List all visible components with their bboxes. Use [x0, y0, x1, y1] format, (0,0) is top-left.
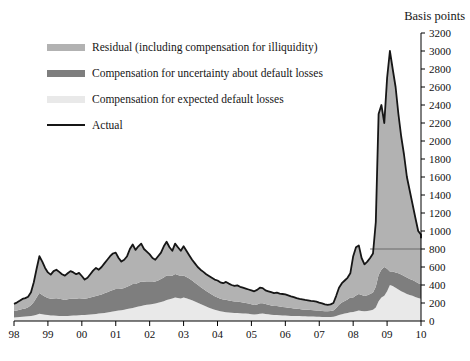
chart-legend: Residual (including compensation for ill… [47, 34, 323, 138]
legend-swatch-expected-icon [47, 96, 85, 103]
legend-item-expected: Compensation for expected default losses [47, 86, 323, 112]
legend-item-residual: Residual (including compensation for ill… [47, 34, 323, 60]
x-tick-label: 98 [9, 328, 21, 340]
y-tick-label: 600 [429, 261, 446, 273]
y-axis-title: Basis points [393, 9, 465, 24]
x-tick-label: 08 [348, 328, 360, 340]
legend-swatch-uncertainty-icon [47, 70, 85, 77]
legend-item-uncertainty: Compensation for uncertainty about defau… [47, 60, 323, 86]
x-tick-label: 00 [76, 328, 88, 340]
y-tick-label: 3200 [429, 27, 452, 39]
y-tick-label: 0 [429, 315, 435, 327]
y-tick-label: 2600 [429, 81, 452, 93]
x-tick-label: 05 [246, 328, 258, 340]
x-tick-label: 99 [42, 328, 54, 340]
y-tick-label: 1000 [429, 225, 452, 237]
y-tick-label: 1800 [429, 153, 452, 165]
x-tick-label: 04 [212, 328, 224, 340]
legend-item-actual: Actual [47, 112, 323, 138]
y-tick-label: 400 [429, 279, 446, 291]
x-tick-label: 03 [178, 328, 190, 340]
y-tick-label: 2800 [429, 63, 452, 75]
legend-label-expected: Compensation for expected default losses [92, 93, 284, 105]
x-tick-label: 02 [144, 328, 155, 340]
legend-label-actual: Actual [92, 119, 123, 131]
y-tick-label: 800 [429, 243, 446, 255]
legend-swatch-actual-line-icon [47, 124, 85, 126]
bond-spread-decomposition-figure: 9899000102030405060708091002004006008001… [0, 0, 470, 361]
legend-swatch-residual-icon [47, 44, 85, 51]
y-tick-label: 2000 [429, 135, 452, 147]
x-tick-label: 07 [314, 328, 326, 340]
x-tick-label: 09 [382, 328, 394, 340]
y-tick-label: 200 [429, 297, 446, 309]
y-tick-label: 2400 [429, 99, 452, 111]
y-tick-label: 1200 [429, 207, 452, 219]
x-tick-label: 06 [280, 328, 292, 340]
y-tick-label: 1400 [429, 189, 452, 201]
legend-label-residual: Residual (including compensation for ill… [92, 41, 318, 53]
y-tick-label: 1600 [429, 171, 452, 183]
x-tick-label: 01 [110, 328, 121, 340]
y-tick-label: 2200 [429, 117, 452, 129]
y-tick-label: 3000 [429, 45, 452, 57]
legend-label-uncertainty: Compensation for uncertainty about defau… [92, 67, 323, 79]
x-tick-label: 10 [416, 328, 428, 340]
